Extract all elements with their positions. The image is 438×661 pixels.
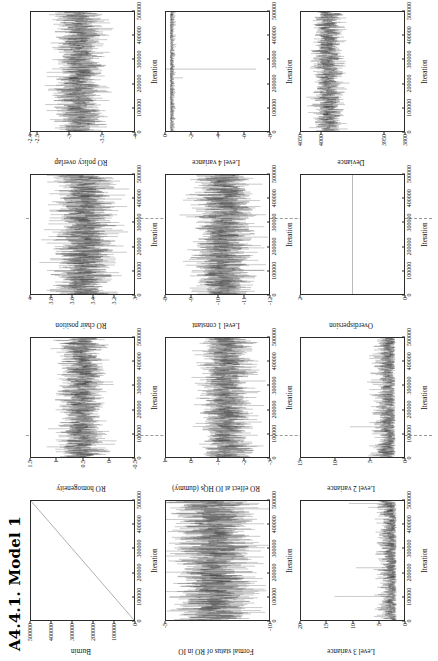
y-tick-mark bbox=[191, 295, 192, 298]
x-tick-label: 500000 bbox=[271, 328, 277, 346]
y-axis-label-formal-status-of-ro-in-io: Formal status of RO in IO bbox=[161, 645, 270, 657]
x-axis-ticks-deviance: 0100000200000300000400000500000 bbox=[405, 11, 417, 132]
x-tick-label: 100000 bbox=[271, 99, 277, 117]
x-tick-mark bbox=[267, 572, 270, 573]
x-tick-mark bbox=[132, 59, 135, 60]
x-tick-label: 0 bbox=[271, 131, 277, 134]
x-tick-mark bbox=[402, 337, 405, 338]
x-axis-ticks-ro-effect-at-io-hqs-dummy: 0100000200000300000400000500000 bbox=[270, 337, 282, 458]
x-tick-label: 400000 bbox=[136, 189, 142, 207]
x-tick-label: 300000 bbox=[271, 213, 277, 231]
x-tick-mark bbox=[132, 35, 135, 36]
x-tick-mark bbox=[132, 270, 135, 271]
x-tick-label: 100000 bbox=[406, 588, 412, 606]
y-tick-mark bbox=[36, 132, 37, 135]
y-tick-mark bbox=[93, 295, 94, 298]
y-axis-label-level-3-variance: Level 3 variance bbox=[296, 645, 405, 657]
trace-svg bbox=[166, 338, 269, 457]
x-tick-label: 300000 bbox=[136, 539, 142, 557]
y-axis-label-text: Formal status of RO in IO bbox=[178, 647, 253, 655]
x-tick-mark bbox=[402, 500, 405, 501]
x-tick-mark bbox=[132, 621, 135, 622]
x-axis-label-ro-homogeneity: Iteration bbox=[151, 337, 159, 458]
trace-plot-grid: Burnin0100000200000300000400000500000010… bbox=[26, 5, 432, 655]
y-tick-label: -2.5 bbox=[34, 134, 40, 144]
y-tick-mark bbox=[300, 621, 301, 624]
x-axis-ticks-ro-policy-overlap: 0100000200000300000400000500000 bbox=[135, 11, 147, 132]
y-axis-label-text: Overdispersion bbox=[329, 321, 373, 329]
y-tick-label: -2.4 bbox=[27, 134, 33, 144]
x-axis-ticks-overdispersion: 0100000200000300000400000500000 bbox=[405, 174, 417, 295]
x-tick-mark bbox=[267, 246, 270, 247]
x-tick-mark bbox=[402, 35, 405, 36]
x-tick-label: 300000 bbox=[271, 539, 277, 557]
x-tick-mark bbox=[132, 458, 135, 459]
y-axis-label-overdispersion: Overdispersion bbox=[296, 319, 405, 331]
x-axis-ticks-level-1-constant: 0100000200000300000400000500000 bbox=[270, 174, 282, 295]
x-tick-label: 500000 bbox=[271, 491, 277, 509]
y-tick-mark bbox=[352, 621, 353, 624]
y-tick-mark bbox=[165, 621, 166, 624]
x-tick-mark bbox=[402, 246, 405, 247]
x-tick-mark bbox=[132, 361, 135, 362]
y-tick-mark bbox=[369, 458, 370, 461]
x-tick-mark bbox=[402, 433, 405, 434]
x-tick-label: 300000 bbox=[406, 50, 412, 68]
x-tick-label: 0 bbox=[406, 620, 412, 623]
x-tick-label: 200000 bbox=[271, 238, 277, 256]
y-tick-mark bbox=[30, 132, 31, 135]
x-tick-mark bbox=[267, 83, 270, 84]
x-tick-label: 0 bbox=[271, 620, 277, 623]
x-tick-mark bbox=[132, 222, 135, 223]
y-axis-ticks-overdispersion: 02 bbox=[300, 295, 405, 317]
y-tick-label: 4000 bbox=[318, 134, 324, 146]
x-tick-label: 0 bbox=[271, 457, 277, 460]
y-tick-label: -11 bbox=[241, 297, 247, 305]
x-tick-label: 100000 bbox=[271, 588, 277, 606]
trace-svg bbox=[301, 501, 404, 620]
x-tick-mark bbox=[267, 132, 270, 133]
x-tick-mark bbox=[132, 500, 135, 501]
x-tick-label: 500000 bbox=[136, 491, 142, 509]
x-tick-label: 100000 bbox=[136, 425, 142, 443]
x-tick-label: 0 bbox=[136, 620, 142, 623]
x-tick-label: 300000 bbox=[406, 213, 412, 231]
x-tick-label: 200000 bbox=[271, 564, 277, 582]
x-tick-label: 400000 bbox=[136, 515, 142, 533]
trace-svg bbox=[166, 175, 269, 294]
x-axis-label-deviance: Iteration bbox=[421, 11, 429, 132]
y-tick-label: 300000 bbox=[69, 623, 75, 641]
y-tick-mark bbox=[114, 295, 115, 298]
x-tick-label: 300000 bbox=[271, 376, 277, 394]
x-tick-mark bbox=[402, 174, 405, 175]
plot-area-overdispersion bbox=[300, 174, 405, 295]
y-tick-mark bbox=[243, 458, 244, 461]
x-tick-label: 0 bbox=[406, 131, 412, 134]
x-axis-ticks-formal-status-of-ro-in-io: 0100000200000300000400000500000 bbox=[270, 500, 282, 621]
x-tick-mark bbox=[267, 596, 270, 597]
plot-area-level-1-constant bbox=[165, 174, 270, 295]
y-axis-label-text: Burnin bbox=[71, 647, 91, 655]
y-tick-label: 0.5 bbox=[80, 460, 86, 468]
plot-area-ro-homogeneity bbox=[30, 337, 135, 458]
x-tick-mark bbox=[132, 572, 135, 573]
trace-svg bbox=[301, 338, 404, 457]
x-tick-mark bbox=[267, 59, 270, 60]
y-axis-label-level-2-variance: Level 2 variance bbox=[296, 482, 405, 494]
y-tick-mark bbox=[69, 132, 70, 135]
x-axis-label-overdispersion: Iteration bbox=[421, 174, 429, 295]
x-tick-mark bbox=[267, 524, 270, 525]
x-tick-mark bbox=[267, 621, 270, 622]
y-axis-label-text: Level 3 variance bbox=[327, 647, 375, 655]
x-axis-ticks-level-2-variance: 0100000200000300000400000500000 bbox=[405, 337, 417, 458]
x-tick-label: 100000 bbox=[136, 262, 142, 280]
y-tick-mark bbox=[102, 132, 103, 135]
x-axis-label-ro-chair-position: Iteration bbox=[151, 174, 159, 295]
y-tick-mark bbox=[300, 295, 301, 298]
x-tick-mark bbox=[267, 337, 270, 338]
x-tick-label: 500000 bbox=[271, 165, 277, 183]
trace-panel-ro-homogeneity: RO homogeneity-0.500.511.501000002000003… bbox=[26, 329, 161, 492]
x-axis-label-level-4-variance: Iteration bbox=[286, 11, 294, 132]
x-tick-label: 100000 bbox=[406, 425, 412, 443]
x-axis-ticks-level-3-variance: 0100000200000300000400000500000 bbox=[405, 500, 417, 621]
